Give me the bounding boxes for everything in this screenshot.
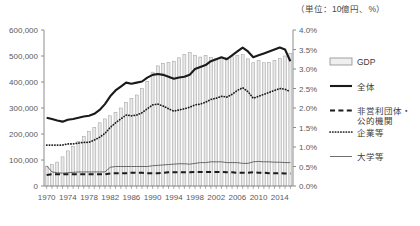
gdp-bar	[172, 61, 175, 186]
left-axis-tick-label: 400,000	[9, 78, 38, 87]
gdp-bar	[236, 56, 239, 186]
legend-label-gdp: GDP	[357, 57, 376, 67]
chart-container: （単位：10億円、%） 0100,000200,000300,000400,00…	[0, 0, 420, 226]
x-axis-tick-label: 1990	[144, 193, 162, 202]
right-axis-tick-label: 2.0%	[299, 104, 317, 113]
legend-item-nonprofit: 非営利団体・公的機関	[330, 106, 411, 126]
right-axis-tick-label: 2.5%	[299, 85, 317, 94]
gdp-bar	[231, 57, 234, 186]
gdp-bar	[199, 57, 202, 186]
legend-label-nonprofit: 公的機関	[357, 116, 393, 126]
gdp-bar	[183, 55, 186, 186]
gdp-bar	[156, 66, 159, 186]
left-axis-tick-label: 600,000	[9, 26, 38, 35]
left-axis-tick-label: 0	[34, 182, 39, 191]
left-axis-tick-label: 300,000	[9, 104, 38, 113]
gdp-bar	[45, 167, 48, 187]
left-axis-tick-label: 200,000	[9, 130, 38, 139]
x-axis-tick-label: 2006	[228, 193, 246, 202]
gdp-bar	[241, 55, 244, 186]
gdp-bar	[194, 55, 197, 186]
gdp-bar	[252, 63, 255, 186]
x-axis-tick-label: 1974	[59, 193, 77, 202]
x-axis-tick-label: 1986	[123, 193, 141, 202]
gdp-bar	[204, 55, 207, 186]
gdp-bar	[162, 63, 165, 186]
legend-label-nonprofit: 非営利団体・	[357, 106, 411, 116]
gdp-bar	[141, 89, 144, 187]
legend-item-university: 大学等	[330, 152, 384, 162]
x-axis-tick-label: 1998	[186, 193, 204, 202]
legend-item-company: 企業等	[330, 128, 384, 138]
legend-label-company: 企業等	[357, 128, 384, 138]
gdp-bar	[167, 63, 170, 187]
right-axis-tick-label: 0.0%	[299, 182, 317, 191]
x-axis-tick-label: 2002	[207, 193, 225, 202]
gdp-bar	[135, 95, 138, 186]
gdp-bar	[72, 146, 75, 186]
x-axis-tick-label: 1982	[101, 193, 119, 202]
gdp-bar	[88, 132, 91, 186]
gdp-bar	[268, 63, 271, 187]
gdp-bar	[103, 119, 106, 186]
gdp-bar	[246, 59, 249, 186]
left-axis-tick-label: 100,000	[9, 156, 38, 165]
legend-swatch-gdp	[330, 58, 352, 65]
legend-item-total: 全体	[330, 82, 375, 92]
left-axis-tick-label: 500,000	[9, 52, 38, 61]
gdp-bar	[220, 59, 223, 186]
gdp-bar	[93, 128, 96, 187]
gdp-bar	[215, 59, 218, 186]
chart-plot: 0100,000200,000300,000400,000500,000600,…	[0, 0, 420, 226]
right-axis-tick-label: 4.0%	[299, 26, 317, 35]
right-axis-tick-label: 1.0%	[299, 143, 317, 152]
gdp-bar	[98, 123, 101, 186]
gdp-bar	[151, 72, 154, 186]
gdp-bar	[146, 81, 149, 186]
right-axis-tick-label: 1.5%	[299, 124, 317, 133]
x-axis-tick-label: 1994	[165, 193, 183, 202]
x-axis-tick-label: 2010	[250, 193, 268, 202]
gdp-bar	[66, 151, 69, 186]
gdp-bar	[262, 63, 265, 186]
gdp-bar	[273, 60, 276, 186]
gdp-bar	[209, 58, 212, 186]
right-axis-tick-label: 0.5%	[299, 163, 317, 172]
legend-label-university: 大学等	[357, 152, 384, 162]
legend-label-total: 全体	[357, 82, 375, 92]
right-axis-tick-label: 3.0%	[299, 65, 317, 74]
x-axis-tick-label: 1978	[80, 193, 98, 202]
gdp-bar	[61, 157, 64, 186]
legend-item-gdp: GDP	[330, 57, 376, 67]
gdp-bar	[289, 53, 292, 186]
right-axis-tick-label: 3.5%	[299, 46, 317, 55]
gdp-bar	[82, 137, 85, 186]
x-axis-tick-label: 2014	[271, 193, 289, 202]
gdp-bar	[257, 61, 260, 186]
gdp-bar	[225, 58, 228, 186]
gdp-bar	[77, 142, 80, 186]
gdp-bar	[284, 56, 287, 186]
x-axis-tick-label: 1970	[38, 193, 56, 202]
gdp-bar	[278, 59, 281, 186]
